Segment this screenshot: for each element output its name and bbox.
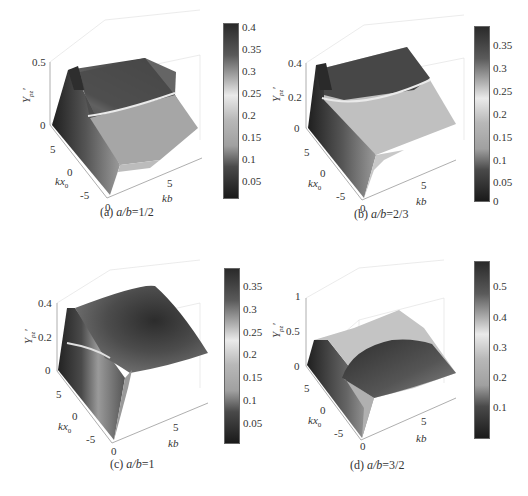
cb-tick: 0.35 <box>243 281 262 292</box>
z-tick-bottom: 0 <box>40 120 46 131</box>
cb-tick: 0.1 <box>493 402 507 413</box>
x-axis-label: kx0 <box>308 177 321 192</box>
cb-tick: 0.2 <box>493 372 507 383</box>
y-axis-label: kb <box>416 195 426 207</box>
y-tick-0: 0 <box>360 441 366 452</box>
z-tick-mid: 0.2 <box>38 332 52 343</box>
colorbar-c <box>224 268 240 444</box>
y-tick-5: 5 <box>173 422 179 433</box>
panel-c: 0.4 0.2 0 Ypz' 5 0 -5 kx0 0 5 kb 0.35 0.… <box>0 248 264 496</box>
z-tick-top: 0.4 <box>38 298 52 309</box>
cb-tick: 0.05 <box>243 418 262 429</box>
caption-d: (d) a/b=3/2 <box>350 458 404 473</box>
x-tick-neg5: -5 <box>336 191 345 202</box>
cb-tick: 0.1 <box>493 155 507 166</box>
x-axis-label: kx0 <box>58 420 71 435</box>
z-tick-bottom: 0 <box>45 365 51 376</box>
cb-tick: 0.1 <box>243 395 257 406</box>
cb-tick: 0.05 <box>242 176 261 187</box>
y-tick-5: 5 <box>421 416 427 427</box>
cb-tick: 0.15 <box>243 372 262 383</box>
z-tick-top: 0.5 <box>32 57 46 68</box>
z-tick-mid: 0.2 <box>288 92 302 103</box>
y-tick-0: 0 <box>111 446 117 457</box>
x-tick-5: 5 <box>56 389 62 400</box>
y-tick-5: 5 <box>421 180 427 191</box>
z-tick-mid: 0.5 <box>286 326 300 337</box>
colorbar-b <box>474 26 490 202</box>
z-tick-bottom: 0 <box>294 123 300 134</box>
x-tick-5: 5 <box>50 144 56 155</box>
x-tick-neg5: -5 <box>80 190 89 201</box>
panel-a: 0.5 0 Ypz' 5 0 -5 kx0 0 5 kb 0.4 0.35 0.… <box>0 0 264 248</box>
cb-tick: 0.25 <box>242 88 261 99</box>
z-axis-label: Ypz' <box>20 88 35 103</box>
cb-tick: 0.4 <box>242 22 256 33</box>
caption-b: (b) a/b=2/3 <box>354 207 408 222</box>
cb-tick: 0.35 <box>242 44 261 55</box>
z-tick-bottom: 0 <box>294 361 300 372</box>
z-axis-label: Ypz' <box>22 329 37 344</box>
x-tick-neg5: -5 <box>334 428 343 439</box>
cb-tick: 0.25 <box>243 327 262 338</box>
cb-tick: 0.3 <box>493 342 507 353</box>
x-tick-0: 0 <box>72 411 78 422</box>
z-tick-top: 0.4 <box>288 58 302 69</box>
x-tick-neg5: -5 <box>86 434 95 445</box>
x-axis-label: kx0 <box>55 175 68 190</box>
z-tick-top: 1 <box>295 291 301 302</box>
panel-b: 0.4 0.2 0 Ypz' 5 0 -5 kx0 0 5 kb 0.35 0.… <box>264 0 528 248</box>
z-axis-label: Ypz' <box>270 323 285 338</box>
cb-tick: 0.15 <box>493 132 512 143</box>
z-axis-label: Ypz' <box>270 87 285 102</box>
cb-tick: 0.2 <box>243 349 257 360</box>
colorbar-d <box>474 261 490 439</box>
cb-tick: 0.25 <box>493 86 512 97</box>
colorbar-a <box>223 23 239 199</box>
cb-tick: 0.35 <box>493 40 512 51</box>
x-axis-label: kx0 <box>308 414 321 429</box>
cb-tick: 0.4 <box>493 312 507 323</box>
y-axis-label: kb <box>416 432 426 444</box>
cb-tick: 0.3 <box>243 304 257 315</box>
y-tick-5: 5 <box>167 178 173 189</box>
cb-tick: 0.05 <box>493 177 512 188</box>
y-axis-label: kb <box>168 437 178 449</box>
y-axis-label: kb <box>162 192 172 204</box>
caption-c: (c) a/b=1 <box>110 457 154 472</box>
panel-d: 1 0.5 0 Ypz' 5 0 -5 kx0 0 5 kb 0.5 0.4 0… <box>264 248 528 496</box>
cb-tick: 0.1 <box>242 154 256 165</box>
x-tick-5: 5 <box>304 147 310 158</box>
cb-tick: 0.2 <box>242 110 256 121</box>
cb-tick: 0.3 <box>493 63 507 74</box>
cb-tick: 0.3 <box>242 66 256 77</box>
cb-tick: 0.2 <box>493 109 507 120</box>
cb-tick: 0.15 <box>242 132 261 143</box>
cb-tick: 0 <box>493 196 499 207</box>
cb-tick: 0.5 <box>493 281 507 292</box>
caption-a: (a) a/b=1/2 <box>100 205 154 220</box>
x-tick-5: 5 <box>304 383 310 394</box>
